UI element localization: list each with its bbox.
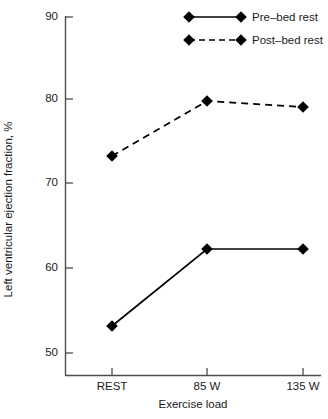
legend-label-pre-bed-rest: Pre–bed rest [252,11,318,23]
y-tick-label-90: 90 [25,11,58,23]
y-axis-title: Left ventricular ejection fraction, % [0,0,16,419]
x-tick-marks [112,368,303,375]
legend-label-post-bed-rest: Post–bed rest [252,34,323,46]
y-tick-label-80: 80 [25,93,58,105]
y-tick-label-60: 60 [25,262,58,274]
series-pre-bed-rest-markers [106,243,309,332]
y-tick-label-50: 50 [25,347,58,359]
legend-sample-post-bed-rest [183,34,247,46]
series-post-bed-rest-line [112,101,303,156]
x-tick-label-135w: 135 W [267,381,328,393]
y-tick-label-70: 70 [25,177,58,189]
legend-sample-pre-bed-rest [183,11,247,23]
series-pre-bed-rest-line [112,249,303,326]
x-tick-label-85w: 85 W [171,381,243,393]
x-axis-title: Exercise load [65,398,321,411]
x-tick-label-rest: REST [76,381,148,393]
line-chart-figure: 90 80 70 60 50 REST 85 W 135 W Left vent… [0,0,328,419]
